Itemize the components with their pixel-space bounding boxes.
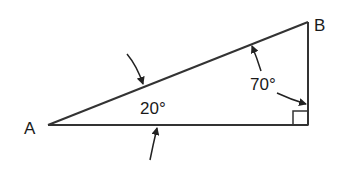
angle-label-b: 70° [250, 75, 276, 94]
arrow-70-to-vertical-icon [277, 93, 306, 104]
vertex-label-b: B [314, 16, 325, 35]
right-triangle-diagram: A B 20° 70° [0, 0, 344, 172]
side-ab-hypotenuse [48, 22, 308, 125]
arrow-to-hypotenuse-icon [127, 54, 143, 84]
vertex-label-a: A [24, 119, 36, 138]
arrow-to-base-icon [150, 128, 157, 160]
arrow-70-to-hypotenuse-icon [252, 46, 261, 71]
angle-label-a: 20° [140, 99, 166, 118]
right-angle-mark [293, 111, 308, 125]
